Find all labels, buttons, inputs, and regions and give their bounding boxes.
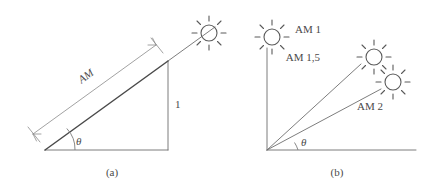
label-theta-b: θ — [301, 136, 307, 148]
label-vertical-one: 1 — [175, 98, 181, 110]
sun-icon-am2-rays — [376, 65, 410, 99]
label-am15: AM 1,5 — [286, 51, 321, 63]
caption-panel-b: (b) — [331, 166, 344, 179]
sun-icon-am15 — [357, 40, 391, 74]
figure-canvas: AM 1 θ (a) — [0, 0, 422, 196]
sun-icon-am2 — [376, 65, 410, 99]
sun-icon — [192, 16, 226, 50]
sun-icon-am1-disc — [264, 29, 280, 45]
sun-icon-disc — [201, 25, 217, 41]
label-am: AM — [75, 66, 96, 86]
panel-a: AM 1 θ (a) — [28, 16, 226, 179]
sun-icon-am1-rays — [255, 20, 289, 54]
air-mass-figure: AM 1 θ (a) — [0, 0, 422, 196]
sun-icon-am15-disc — [366, 49, 382, 65]
panel-b: θ AM 1 — [255, 20, 416, 179]
sun-icon-am1 — [255, 20, 289, 54]
caption-panel-a: (a) — [106, 166, 119, 179]
sun-ray-line — [168, 27, 215, 61]
triangle-hypotenuse-line — [45, 61, 168, 150]
angle-arc-theta-b — [295, 143, 299, 151]
label-am1: AM 1 — [295, 23, 321, 35]
label-theta-a: θ — [76, 135, 82, 147]
sun-icon-rays — [192, 16, 226, 50]
am-dimension-tick-start — [28, 127, 40, 142]
sun-icon-am15-rays — [357, 40, 391, 74]
am-dimension-line — [28, 38, 163, 142]
label-am2: AM 2 — [357, 100, 383, 112]
am-dimension-shaft — [33, 45, 156, 134]
sun-icon-am2-disc — [385, 74, 401, 90]
am-dimension-tick-end — [151, 38, 163, 53]
